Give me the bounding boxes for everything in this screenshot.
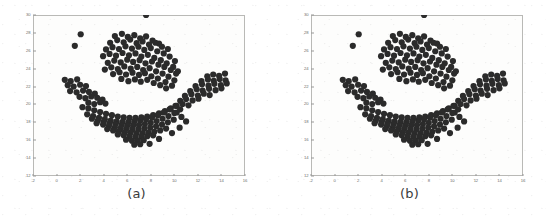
scatter-point [382,126,388,132]
scatter-point [397,50,403,56]
y-tick-mark [33,104,36,105]
scatter-point [437,70,443,76]
x-tick-label: 14 [497,179,501,183]
scatter-point [422,77,428,83]
scatter-point [80,87,86,93]
x-tick-label: 2 [79,179,81,183]
scatter-point [189,97,195,103]
scatter-point [156,136,162,142]
scatter-point [358,87,364,93]
x-tick-mark [405,174,406,177]
scatter-point [357,104,363,110]
scatter-point [172,58,178,64]
scatter-point [356,31,362,37]
x-tick-label: 6 [126,179,128,183]
scatter-point [194,86,200,92]
scatter-point [169,83,175,89]
scatter-point [179,101,185,107]
scatter-point [432,48,438,54]
panel-caption-b: (b) [273,186,546,201]
scatter-point [118,76,124,82]
scatter-point [188,91,194,97]
scatter-point [154,118,160,124]
panel-a: 12141618202224262830-20246810121416 (a) [0,0,273,216]
scatter-point [399,63,405,69]
scatter-point [165,119,171,125]
scatter-point [144,77,150,83]
scatter-point [375,99,381,105]
x-tick-mark [428,174,429,177]
scatter-point [420,70,426,76]
scatter-point [439,50,445,56]
scatter-point [134,64,140,70]
scatter-point [410,76,416,82]
scatter-point [413,44,419,50]
x-tick-label: 12 [196,179,200,183]
x-tick-mark [80,174,81,177]
scatter-point [443,119,449,125]
scatter-point [367,116,373,122]
scatter-point [177,106,183,112]
scatter-point [369,107,375,113]
scatter-point [485,92,491,98]
x-tick-mark [174,174,175,177]
scatter-point [147,141,153,147]
scatter-point [441,125,447,131]
scatter-point [104,126,110,132]
scatter-point [167,53,173,59]
scatter-point [224,80,230,86]
x-tick-label: 14 [219,179,223,183]
y-tick-label: 14 [26,156,30,160]
scatter-point [435,127,441,133]
x-tick-label: 6 [404,179,406,183]
scatter-point [142,60,148,66]
scatter-point [106,51,112,57]
scatter-point [405,37,411,43]
scatter-point [207,92,213,98]
y-tick-mark [311,158,314,159]
scatter-point [414,57,420,63]
scatter-point [62,77,68,83]
scatter-point [91,107,97,113]
scatter-point [65,82,71,88]
x-tick-label: 10 [450,179,454,183]
scatter-point [143,15,149,18]
scatter-point [369,101,375,107]
scatter-point [446,67,452,73]
scatter-point [136,57,142,63]
scatter-point [122,43,128,49]
scatter-point [354,94,360,100]
scatter-point [137,141,143,147]
y-tick-label: 12 [26,174,30,178]
scatter-point [455,106,461,112]
scatter-point [157,82,163,88]
scatter-point [217,76,223,82]
scatter-point [109,44,115,50]
scatter-point [78,31,84,37]
scatter-point [439,64,445,70]
scatter-point [402,57,408,63]
y-tick-label: 26 [26,49,30,53]
scatter-point [94,120,100,126]
scatter-point [500,70,506,76]
y-tick-mark [311,104,314,105]
scatter-point [380,66,386,72]
scatter-point [421,15,427,18]
x-tick-mark [523,174,524,177]
scatter-point [466,91,472,97]
scatter-point [108,64,114,70]
scatter-point [425,65,431,71]
scatter-point [163,85,169,91]
scatter-point [124,57,130,63]
scatter-point [150,132,156,138]
x-tick-label: 10 [172,179,176,183]
scatter-point [423,52,429,58]
x-tick-label: 4 [381,179,383,183]
scatter-point [440,79,446,85]
scatter-point [437,116,443,122]
scatter-point [159,44,165,50]
scatter-point [408,59,414,65]
scatter-point [119,31,125,37]
scatter-point [363,100,369,106]
x-tick-label: 0 [55,179,57,183]
